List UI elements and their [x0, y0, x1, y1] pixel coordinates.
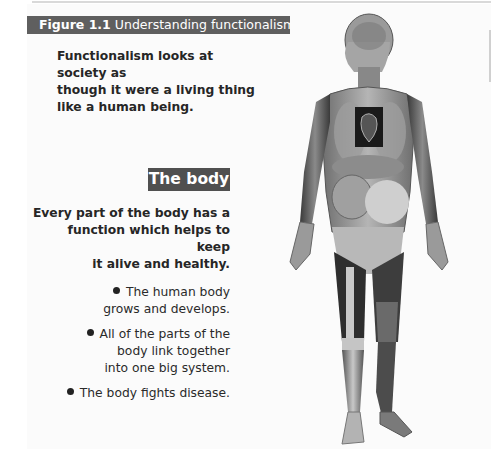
figure-title: Understanding functionalism	[115, 17, 290, 32]
bullet-item: The human body grows and develops.	[60, 284, 230, 318]
section-badge-the-body: The body	[148, 168, 230, 191]
bullet-icon	[113, 287, 120, 294]
bullet-list: The human body grows and develops. All o…	[60, 284, 230, 410]
bullet-icon	[87, 329, 94, 336]
bullet-item: All of the parts of the body link togeth…	[60, 326, 230, 377]
anatomical-human-body-icon	[272, 12, 452, 449]
figure-caption-bar: Figure 1.1Understanding functionalism	[27, 16, 290, 34]
section-description: Every part of the body has a function wh…	[30, 205, 230, 273]
description-line: function which helps to keep	[30, 222, 230, 256]
description-line: it alive and healthy.	[30, 256, 230, 273]
figure-number: Figure 1.1	[39, 17, 111, 32]
intro-paragraph: Functionalism looks at society as though…	[57, 48, 257, 116]
bullet-item: The body fights disease.	[60, 385, 230, 402]
intro-line: though it were a living thing	[57, 82, 257, 99]
top-divider	[32, 1, 491, 3]
bullet-icon	[67, 388, 74, 395]
description-line: Every part of the body has a	[30, 205, 230, 222]
intro-line: Functionalism looks at society as	[57, 48, 257, 82]
intro-line: like a human being.	[57, 99, 257, 116]
